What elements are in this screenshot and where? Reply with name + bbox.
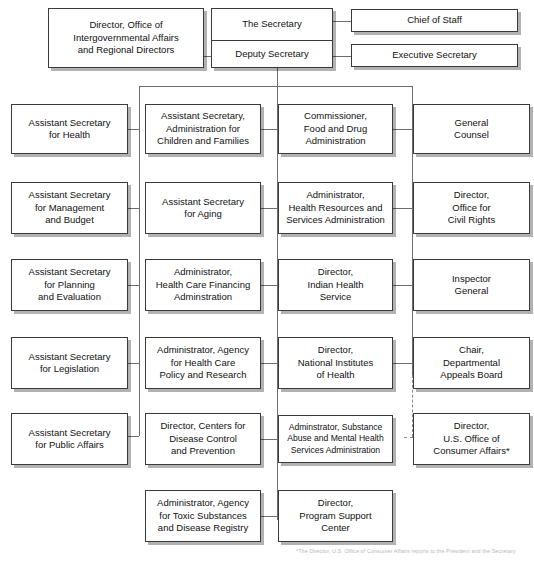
node-label: Director, Indian Health Service: [282, 266, 389, 303]
node-col4-row5[interactable]: Director, U.S. Office of Consumer Affair…: [413, 413, 530, 465]
node-deputy-secretary[interactable]: Deputy Secretary: [212, 41, 332, 67]
node-label: Director, Program Support Center: [282, 497, 389, 534]
node-col2-row2[interactable]: Assistant Secretary for Aging: [145, 182, 261, 234]
node-col1-row4[interactable]: Assistant Secretary for Legislation: [11, 337, 128, 389]
node-col2-row5[interactable]: Director, Centers for Disease Control an…: [145, 413, 261, 465]
node-chief-of-staff[interactable]: Chief of Staff: [351, 9, 518, 32]
node-col2-row6[interactable]: Administrator, Agency for Toxic Substanc…: [145, 490, 261, 542]
stub-col4-row2: [404, 208, 413, 209]
connector-distribution-bar: [139, 86, 413, 87]
node-col4-row3[interactable]: Inspector General: [413, 259, 530, 311]
node-col3-row2[interactable]: Administrator, Health Resources and Serv…: [278, 182, 393, 234]
node-label: Chair, Departmental Appeals Board: [417, 344, 526, 381]
node-label: Inspector General: [417, 273, 526, 298]
stub-col1-row1: [128, 129, 139, 130]
node-label: Administrator, Health Resources and Serv…: [282, 189, 389, 226]
chart-footnote: *The Director, U.S. Office of Consumer A…: [296, 548, 534, 555]
org-chart: Director, Office of Intergovernmental Af…: [0, 0, 534, 562]
node-col4-row2[interactable]: Director, Office for Civil Rights: [413, 182, 530, 234]
node-col3-row4[interactable]: Director, National Institutes of Health: [278, 337, 393, 389]
node-col3-row6[interactable]: Director, Program Support Center: [278, 490, 393, 542]
node-label: Assistant Secretary for Aging: [149, 196, 257, 221]
stub-col1-row5: [128, 436, 139, 437]
node-label: Administrator, Health Care Financing Adm…: [149, 266, 257, 303]
node-label: Assistant Secretary for Management and B…: [15, 189, 124, 226]
connector-consumer-affairs-dotted: [404, 437, 413, 438]
node-label: Commissioner, Food and Drug Administrati…: [282, 110, 389, 147]
spine-left: [139, 86, 140, 436]
node-col4-row4[interactable]: Chair, Departmental Appeals Board: [413, 337, 530, 389]
stub-col2-row6: [261, 516, 277, 517]
stub-col2-row4: [261, 363, 277, 364]
node-label: Assistant Secretary for Legislation: [15, 351, 124, 376]
node-label: Assistant Secretary for Planning and Eva…: [15, 266, 124, 303]
node-secretary-block[interactable]: The Secretary Deputy Secretary: [211, 8, 333, 68]
node-col2-row4[interactable]: Administrator, Agency for Health Care Po…: [145, 337, 261, 389]
node-col3-row5[interactable]: Adminstrator, Substance Abuse and Mental…: [278, 415, 393, 463]
connector-intergov-to-deputy: [204, 56, 211, 57]
node-col2-row1[interactable]: Assistant Secretary, Administration for …: [145, 104, 261, 154]
node-label: Chief of Staff: [355, 14, 514, 26]
stub-col1-row4: [128, 363, 139, 364]
stub-col4-row1: [404, 129, 413, 130]
node-intergovernmental-affairs[interactable]: Director, Office of Intergovernmental Af…: [48, 8, 204, 68]
stub-col4-row4: [404, 363, 413, 364]
connector-deputy-to-executive-secretary: [333, 56, 351, 57]
node-col1-row5[interactable]: Assistant Secretary for Public Affairs: [11, 413, 128, 465]
node-label: Director, Office for Civil Rights: [417, 189, 526, 226]
node-label: Assistant Secretary for Health: [15, 117, 124, 142]
stub-col1-row3: [128, 285, 139, 286]
node-label: Administrator, Agency for Toxic Substanc…: [149, 497, 257, 534]
stub-col2-row2: [261, 208, 277, 209]
node-col1-row2[interactable]: Assistant Secretary for Management and B…: [11, 182, 128, 234]
node-label: Director, U.S. Office of Consumer Affair…: [417, 420, 526, 457]
node-label: Administrator, Agency for Health Care Po…: [149, 344, 257, 381]
stub-col2-row1: [261, 129, 277, 130]
node-label: Assistant Secretary, Administration for …: [149, 110, 257, 147]
node-label: The Secretary: [215, 18, 329, 30]
stub-col4-row3: [404, 285, 413, 286]
node-label: Deputy Secretary: [215, 48, 329, 60]
node-col2-row3[interactable]: Administrator, Health Care Financing Adm…: [145, 259, 261, 311]
node-col1-row1[interactable]: Assistant Secretary for Health: [11, 104, 128, 154]
node-the-secretary[interactable]: The Secretary: [212, 9, 332, 41]
node-col3-row3[interactable]: Director, Indian Health Service: [278, 259, 393, 311]
stub-col1-row2: [128, 208, 139, 209]
stub-col2-row3: [261, 285, 277, 286]
node-executive-secretary[interactable]: Executive Secretary: [351, 44, 518, 67]
stub-col2-row5: [261, 439, 277, 440]
node-col4-row1[interactable]: General Counsel: [413, 104, 530, 154]
node-label: Assistant Secretary for Public Affairs: [15, 427, 124, 452]
node-col3-row1[interactable]: Commissioner, Food and Drug Administrati…: [278, 104, 393, 154]
node-label: Adminstrator, Substance Abuse and Mental…: [282, 422, 389, 456]
node-label: Director, Centers for Disease Control an…: [149, 420, 257, 457]
node-col1-row3[interactable]: Assistant Secretary for Planning and Eva…: [11, 259, 128, 311]
connector-secretary-to-chief-of-staff: [333, 21, 351, 22]
node-label: General Counsel: [417, 117, 526, 142]
node-label: Director, Office of Intergovernmental Af…: [52, 19, 200, 56]
node-label: Director, National Institutes of Health: [282, 344, 389, 381]
node-label: Executive Secretary: [355, 49, 514, 61]
